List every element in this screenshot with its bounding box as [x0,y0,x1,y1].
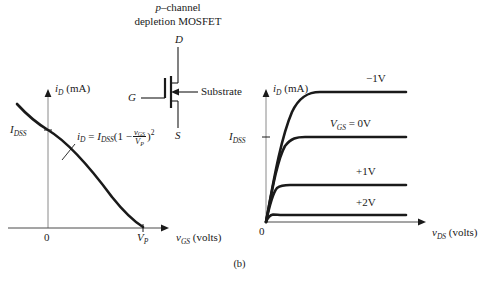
substrate-label: Substrate [201,85,242,98]
output-x-arrowhead [418,219,426,226]
transfer-vp-var: V [137,231,144,243]
output-idss-sub: DSS [233,136,246,145]
equation-open-paren: (1 [114,130,123,142]
output-curve-label-minus-1v: −1V [366,72,386,85]
output-curve-0v [266,137,406,222]
gate-label: G [128,91,136,104]
transfer-equation: iD = IDSS(1 −vGSVP)2 [77,128,154,146]
equation-minus: − [126,130,132,142]
output-y-axis-sub: D [276,88,281,97]
transfer-y-arrowhead [45,89,52,97]
output-curve-label-plus-2v: +2V [356,196,376,209]
output-curve-label-0v-var: V [330,117,337,129]
transfer-origin-label: 0 [44,231,50,244]
transfer-vp-label: VP [137,231,148,244]
transfer-x-axis-unit: (volts) [193,231,222,243]
transfer-x-axis-sub: GS [181,237,190,246]
output-origin-label: 0 [259,225,265,238]
output-x-axis-sub: DS [437,232,446,241]
equation-idss-sub: DSS [101,135,114,144]
output-x-axis-label: vDS (volts) [432,226,478,239]
output-y-axis-label: iD (mA) [273,82,308,95]
substrate-arrowhead [171,89,179,96]
transfer-y-axis-unit: (mA) [66,82,90,94]
equation-equals: = [88,130,94,142]
equation-num-sub: GS [138,131,145,137]
equation-fraction-numerator: vGS [133,128,146,137]
output-y-arrowhead [263,89,270,97]
transfer-y-axis-label: iD (mA) [55,82,90,95]
figure-caption: (b) [0,258,479,269]
transfer-idss-label: IDSS [10,123,27,136]
transfer-curve [17,104,143,227]
equation-den-sub: P [140,141,144,147]
output-curve-plus-1v [266,185,406,222]
output-curve-label-0v: VGS = 0V [330,117,371,130]
transfer-plot-axes [8,89,169,232]
output-plot-axes [262,89,426,225]
transfer-idss-sub: DSS [14,129,27,138]
output-idss-label: IDSS [229,130,246,143]
equation-fraction-denominator: VP [133,136,146,146]
source-label: S [175,129,181,142]
equation-fraction: vGSVP [133,128,146,146]
transfer-x-arrowhead [161,225,169,232]
output-curve-label-0v-value: = 0V [349,117,371,129]
output-curve-label-plus-1v: +1V [356,165,376,178]
equation-lhs-sub: D [80,135,85,144]
output-curve-label-0v-sub: GS [337,123,346,132]
mosfet-symbol [141,47,198,128]
output-y-axis-unit: (mA) [284,82,308,94]
transfer-y-axis-sub: D [58,88,63,97]
output-curve-plus-2v [266,215,406,223]
transfer-x-axis-label: vGS (volts) [176,231,222,244]
drain-label: D [175,33,183,46]
output-curve-minus-1v [266,92,406,222]
figure-container: p–channel depletion MOSFET [0,0,479,286]
transfer-vp-sub: P [144,237,149,246]
output-x-axis-unit: (volts) [449,226,478,238]
equation-exponent: 2 [151,128,155,137]
